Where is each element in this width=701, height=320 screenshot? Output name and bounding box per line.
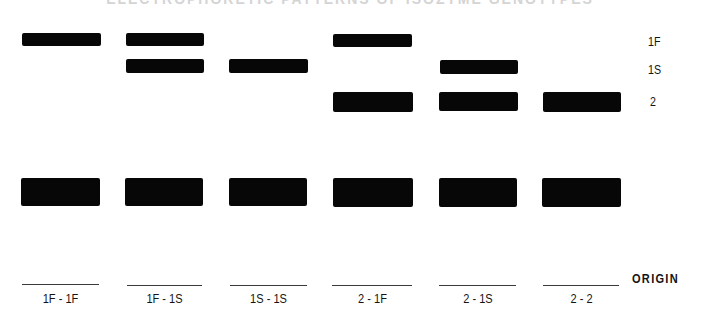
lane-1-origin-line xyxy=(22,284,99,285)
lane-4-label: 2 - 1F xyxy=(339,292,406,305)
lane-2-band-origin xyxy=(125,178,203,206)
row-label-1f: 1F xyxy=(648,35,660,48)
lane-1-band-origin xyxy=(21,178,100,206)
lane-5-label: 2 - 1S xyxy=(445,292,511,305)
lane-5-band-1s xyxy=(440,60,518,74)
lane-2-band-1s xyxy=(126,59,204,73)
lane-3-band-1s xyxy=(229,59,308,73)
lane-3-origin-line xyxy=(230,285,307,286)
lane-2-band-1f xyxy=(126,33,204,46)
lane-3-band-origin xyxy=(229,178,307,206)
lane-3-label: 1S - 1S xyxy=(236,292,301,305)
lane-1-band-1f xyxy=(22,33,101,46)
figure-title-cropped: ELECTROPHORETIC PATTERNS OF ISOZYME GENO… xyxy=(70,0,630,5)
lane-4-band-1f xyxy=(333,34,412,47)
lane-5-band-origin xyxy=(439,178,517,207)
origin-label: ORIGIN xyxy=(632,272,679,285)
lane-5-band-2 xyxy=(439,92,518,111)
lane-2-label: 1F - 1S xyxy=(132,292,197,305)
lane-4-band-2 xyxy=(333,92,413,112)
lane-4-origin-line xyxy=(332,285,412,286)
lane-1-label: 1F - 1F xyxy=(28,292,93,305)
lane-2-origin-line xyxy=(127,285,202,286)
lane-6-band-origin xyxy=(542,178,621,207)
lane-6-band-2 xyxy=(543,92,621,112)
row-label-2: 2 xyxy=(650,95,656,108)
lane-5-origin-line xyxy=(439,285,516,286)
lane-4-band-origin xyxy=(333,178,413,207)
row-label-1s: 1S xyxy=(648,63,661,76)
lane-6-origin-line xyxy=(543,285,619,286)
lane-6-label: 2 - 2 xyxy=(549,292,614,305)
